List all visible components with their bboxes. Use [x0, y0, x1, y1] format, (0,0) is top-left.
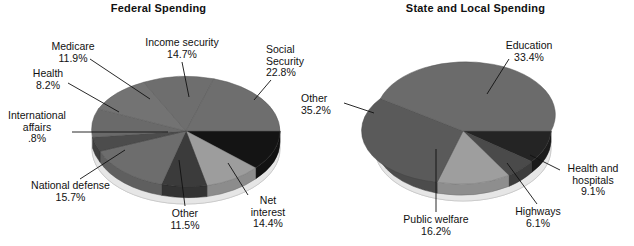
callout-international-affairs: International affairs .8% [2, 110, 72, 145]
callout-social-security: Social Security 22.8% [266, 44, 318, 79]
chart-panel-federal-spending: Federal Spending [0, 0, 317, 246]
callout-other: Other 11.5% [155, 208, 215, 231]
leader-line-social-security [254, 80, 271, 100]
callout-health-hospitals: Health and hospitals 9.1% [555, 163, 631, 198]
pie-chart-state-local [317, 0, 634, 246]
pie-top-face-state [362, 62, 556, 184]
callout-education: Education 33.4% [492, 40, 566, 63]
callout-net-interest: Net interest 14.4% [240, 195, 296, 230]
callout-public-welfare: Public welfare 16.2% [392, 214, 480, 237]
callout-income-security: Income security 14.7% [128, 37, 236, 60]
chart-panel-state-local-spending: State and Local Spending [317, 0, 634, 246]
callout-medicare: Medicare 11.9% [33, 41, 113, 64]
callout-other-state: Other 35.2% [301, 93, 349, 116]
callout-highways: Highways 6.1% [507, 206, 569, 229]
callout-health: Health 8.2% [23, 68, 73, 91]
callout-national-defense: National defense 15.7% [18, 180, 123, 203]
